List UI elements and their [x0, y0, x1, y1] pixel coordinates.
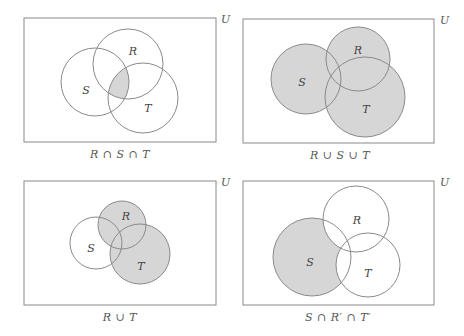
universe-label: U [221, 13, 230, 26]
set-label-r: R [122, 210, 130, 223]
venn-diagram-canvas [0, 0, 464, 336]
universe-label: U [221, 176, 230, 189]
panel-s-only [243, 181, 434, 305]
set-label-r: R [129, 45, 137, 58]
set-label-t: T [137, 260, 144, 273]
set-label-t: T [364, 267, 371, 280]
set-label-s: S [82, 84, 90, 97]
set-label-t: T [144, 102, 151, 115]
set-label-s: S [298, 76, 306, 89]
panel-intersection-all [24, 18, 216, 142]
panel-caption: R ∪ T [103, 311, 137, 324]
panel-caption: R ∩ S ∩ T [90, 148, 150, 161]
universe-label: U [440, 14, 449, 27]
set-label-s: S [306, 256, 314, 269]
panel-union-all [243, 19, 434, 143]
set-label-s: S [87, 242, 95, 255]
panel-union-rt [24, 181, 216, 305]
panel-caption: S ∩ R′ ∩ T′ [305, 311, 371, 324]
universe-label: U [440, 176, 449, 189]
set-label-r: R [354, 44, 362, 57]
set-label-r: R [353, 214, 361, 227]
panel-caption: R ∪ S ∪ T [310, 149, 370, 162]
set-label-t: T [362, 103, 369, 116]
